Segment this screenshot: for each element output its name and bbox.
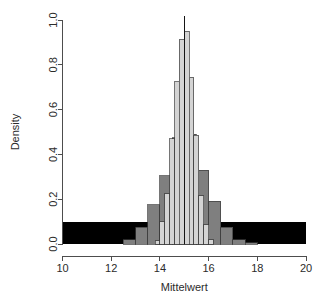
histogram-bar bbox=[179, 39, 184, 244]
histogram-bar bbox=[209, 201, 221, 244]
histogram-bar bbox=[194, 135, 199, 244]
x-tick-label: 18 bbox=[251, 262, 263, 274]
chart-canvas: 0.00.20.40.60.81.0101214161820Mittelwert… bbox=[0, 0, 324, 304]
histogram-bar bbox=[165, 194, 170, 244]
histogram-bar bbox=[148, 205, 160, 244]
histogram-bar bbox=[155, 241, 160, 244]
histogram-bar bbox=[199, 196, 204, 244]
y-tick-label: 0.0 bbox=[47, 236, 59, 251]
histogram-bar bbox=[204, 225, 209, 244]
y-tick-label: 0.2 bbox=[47, 192, 59, 207]
x-tick-label: 14 bbox=[154, 262, 166, 274]
histogram-bar bbox=[209, 240, 214, 244]
axis-labels-layer: 0.00.20.40.60.81.0101214161820Mittelwert… bbox=[9, 12, 312, 293]
x-tick-label: 12 bbox=[105, 262, 117, 274]
y-axis-title: Density bbox=[9, 113, 21, 150]
y-tick-label: 0.8 bbox=[47, 57, 59, 72]
histogram-bar bbox=[136, 227, 148, 244]
y-tick-label: 0.6 bbox=[47, 102, 59, 117]
histogram-bar bbox=[170, 139, 175, 244]
x-tick-label: 10 bbox=[56, 262, 68, 274]
histogram-bar bbox=[245, 243, 257, 244]
y-tick-label: 1.0 bbox=[47, 12, 59, 27]
x-tick-label: 20 bbox=[300, 262, 312, 274]
histogram-bar bbox=[189, 77, 194, 244]
histogram-bar bbox=[175, 82, 180, 244]
histogram-bar bbox=[184, 31, 189, 244]
histogram-bar bbox=[233, 240, 245, 244]
histogram-bar bbox=[160, 222, 165, 244]
histogram-bar bbox=[221, 227, 233, 244]
x-axis-title: Mittelwert bbox=[161, 281, 208, 293]
x-tick-label: 16 bbox=[202, 262, 214, 274]
histogram-plot: 0.00.20.40.60.81.0101214161820Mittelwert… bbox=[0, 0, 324, 304]
histogram-bar bbox=[123, 240, 135, 244]
y-tick-label: 0.4 bbox=[47, 147, 59, 162]
